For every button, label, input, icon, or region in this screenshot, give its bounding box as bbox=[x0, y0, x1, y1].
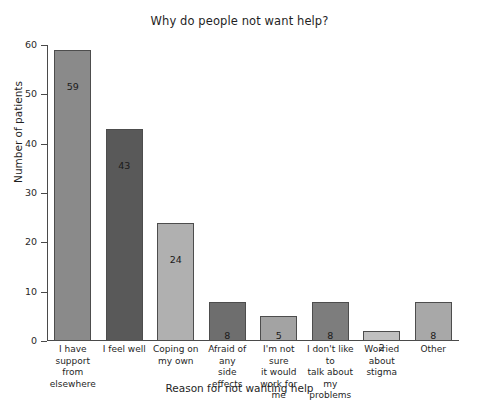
y-tick-mark bbox=[41, 341, 47, 342]
y-tick-label: 10 bbox=[7, 287, 37, 297]
bar-value-label: 43 bbox=[107, 160, 142, 171]
bar: 59 bbox=[54, 50, 91, 341]
chart-title: Why do people not want help? bbox=[0, 14, 479, 28]
bar: 8 bbox=[415, 302, 452, 341]
plot-area: 59432485828 bbox=[47, 45, 459, 341]
bar-value-label: 8 bbox=[210, 330, 245, 341]
bar-value-label: 5 bbox=[261, 330, 296, 341]
bar: 8 bbox=[312, 302, 349, 341]
x-axis-title: Reason for not wanting help bbox=[0, 382, 479, 394]
y-tick-label: 60 bbox=[7, 40, 37, 50]
y-tick-label: 20 bbox=[7, 237, 37, 247]
bar: 24 bbox=[157, 223, 194, 341]
bar-chart: Why do people not want help? 01020304050… bbox=[0, 0, 479, 403]
bar: 43 bbox=[106, 129, 143, 341]
category-label: Other bbox=[408, 344, 460, 356]
y-tick: 0 bbox=[41, 341, 47, 342]
category-label: I feel well bbox=[99, 344, 151, 356]
bar-value-label: 8 bbox=[313, 330, 348, 341]
bar: 5 bbox=[260, 316, 297, 341]
y-tick-label: 0 bbox=[7, 336, 37, 346]
bar-value-label: 59 bbox=[55, 81, 90, 92]
bar: 2 bbox=[363, 331, 400, 341]
category-label: Worried about stigma bbox=[356, 344, 408, 379]
bar-value-label: 8 bbox=[416, 330, 451, 341]
category-label: Coping on my own bbox=[150, 344, 202, 367]
y-axis-title: Number of patients bbox=[12, 62, 24, 202]
bar-value-label: 24 bbox=[158, 254, 193, 265]
bar: 8 bbox=[209, 302, 246, 341]
